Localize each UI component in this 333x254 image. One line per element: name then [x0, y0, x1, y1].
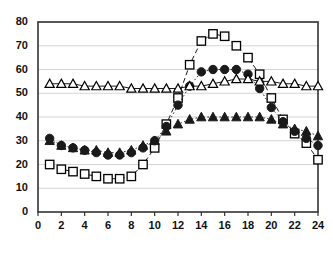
data-point-open-triangle-2	[57, 79, 66, 87]
x-tick-label-24: 24	[308, 220, 328, 231]
y-tick-label-30: 30	[2, 135, 28, 146]
x-tick-label-14: 14	[191, 220, 211, 231]
data-point-filled-circle-20	[267, 103, 275, 111]
data-point-filled-triangle-15	[208, 112, 217, 121]
y-tick-label-80: 80	[2, 16, 28, 27]
x-tick-label-18: 18	[238, 220, 258, 231]
x-tick-label-10: 10	[145, 220, 165, 231]
data-point-filled-circle-15	[209, 65, 217, 73]
series-line-open-square	[50, 34, 318, 179]
data-point-open-square-24	[314, 156, 322, 164]
data-point-open-triangle-20	[267, 77, 276, 85]
data-point-open-square-13	[185, 61, 193, 69]
x-tick-label-4: 4	[75, 220, 95, 231]
y-tick-label-60: 60	[2, 64, 28, 75]
data-point-filled-triangle-12	[173, 119, 182, 128]
data-point-open-triangle-6	[103, 82, 112, 90]
data-point-open-square-5	[92, 172, 100, 180]
data-point-open-triangle-9	[138, 84, 147, 92]
data-point-open-square-15	[209, 30, 217, 38]
data-point-open-square-20	[267, 94, 275, 102]
data-point-open-triangle-3	[68, 79, 77, 87]
data-point-filled-circle-12	[174, 101, 182, 109]
y-tick-label-40: 40	[2, 111, 28, 122]
y-tick-label-70: 70	[2, 40, 28, 51]
data-point-open-square-9	[139, 160, 147, 168]
series-line-filled-triangle	[50, 117, 318, 153]
data-point-filled-triangle-14	[197, 112, 206, 121]
data-point-open-triangle-17	[232, 74, 241, 82]
data-point-filled-triangle-17	[232, 112, 241, 121]
x-tick-label-16: 16	[215, 220, 235, 231]
x-tick-label-8: 8	[121, 220, 141, 231]
y-tick-label-0: 0	[2, 206, 28, 217]
x-tick-label-20: 20	[261, 220, 281, 231]
data-point-filled-circle-17	[232, 65, 240, 73]
data-point-open-triangle-1	[45, 79, 54, 87]
x-tick-label-12: 12	[168, 220, 188, 231]
x-tick-label-6: 6	[98, 220, 118, 231]
chart-container: 80706050403020100 024681012141618202224	[0, 0, 333, 254]
data-point-open-triangle-22	[290, 79, 299, 87]
data-point-open-triangle-24	[313, 82, 322, 90]
data-point-filled-triangle-24	[313, 131, 322, 140]
data-point-open-triangle-7	[115, 82, 124, 90]
data-point-open-square-3	[69, 167, 77, 175]
data-point-open-square-16	[220, 32, 228, 40]
data-point-open-square-18	[244, 53, 252, 61]
data-point-open-square-6	[104, 175, 112, 183]
chart-plot	[0, 0, 333, 254]
data-point-open-square-2	[57, 165, 65, 173]
data-point-open-triangle-11	[162, 84, 171, 92]
data-point-open-square-14	[197, 37, 205, 45]
data-point-filled-circle-16	[220, 65, 228, 73]
data-point-filled-triangle-23	[302, 126, 311, 135]
data-point-open-square-17	[232, 42, 240, 50]
data-point-filled-circle-14	[197, 68, 205, 76]
y-tick-label-20: 20	[2, 159, 28, 170]
y-tick-label-50: 50	[2, 87, 28, 98]
data-point-open-square-4	[80, 170, 88, 178]
data-point-filled-circle-24	[314, 141, 322, 149]
data-point-open-square-1	[45, 160, 53, 168]
data-point-open-triangle-10	[150, 84, 159, 92]
data-point-filled-triangle-16	[220, 112, 229, 121]
x-tick-label-22: 22	[285, 220, 305, 231]
data-point-filled-triangle-18	[243, 112, 252, 121]
data-point-open-triangle-5	[92, 82, 101, 90]
data-point-open-square-8	[127, 172, 135, 180]
data-point-open-square-7	[115, 175, 123, 183]
data-point-filled-triangle-19	[255, 112, 264, 121]
y-tick-label-10: 10	[2, 182, 28, 193]
x-tick-label-0: 0	[28, 220, 48, 231]
x-tick-label-2: 2	[51, 220, 71, 231]
